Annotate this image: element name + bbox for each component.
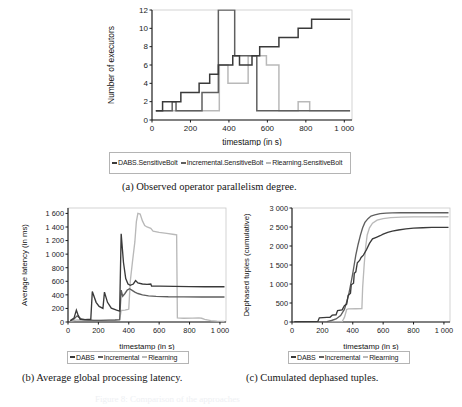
x-tick-label: 200	[316, 326, 328, 335]
legend-dephased-entry-1: Incremental	[319, 354, 360, 362]
y-tick-label: 12	[139, 6, 148, 15]
legend-swatch-icon	[266, 162, 271, 164]
legend-swatch-icon	[319, 356, 324, 358]
x-tick-label: 200	[92, 326, 104, 335]
series-line-rlearning	[294, 217, 448, 322]
series-line-incremental	[294, 213, 448, 322]
series-group	[70, 213, 224, 321]
y-tick-label: 0	[60, 318, 64, 327]
x-tick-label: 800	[299, 124, 313, 133]
y-tick-label: 6	[144, 61, 149, 70]
caption-c: (c) Cumulated dephased tuples.	[246, 372, 378, 383]
y-tick-label: 800	[52, 264, 64, 273]
x-tick-label: 0	[150, 124, 155, 133]
legend-dephased-label-2: Rlearning	[369, 354, 398, 362]
legend-swatch-icon	[363, 356, 368, 358]
x-tick-label: 0	[66, 326, 70, 335]
bleed-text-line-1: Figure 8: Comparison of the approaches	[95, 394, 240, 404]
y-tick-label: 600	[52, 277, 64, 286]
legend-dephased-entry-2: Rlearning	[363, 354, 398, 362]
y-tick-label: 1 000	[270, 280, 289, 289]
x-tick-label: 1 000	[334, 124, 355, 133]
legend-latency-label-2: Rlearning	[148, 354, 177, 362]
legend-dephased-label-1: Incremental	[325, 354, 360, 362]
series-line-rlearning	[156, 56, 350, 111]
series-line-rlearning	[70, 213, 224, 321]
y-tick-label: 0	[284, 318, 288, 327]
x-tick-label: 400	[123, 326, 135, 335]
chart-dephased-panel: 05001 0001 5002 0002 5003 00002004006008…	[240, 202, 454, 350]
series-line-dabs	[70, 234, 224, 321]
legend-swatch-icon	[181, 162, 186, 164]
y-axis-title: Number of executors	[106, 26, 116, 104]
y-tick-label: 400	[52, 291, 64, 300]
y-axis-title: Average latency (in ms)	[20, 224, 29, 306]
x-tick-label: 1 000	[211, 326, 230, 335]
x-tick-label: 600	[377, 326, 389, 335]
y-tick-label: 1 600	[46, 209, 65, 218]
x-tick-label: 800	[183, 326, 195, 335]
y-tick-label: 1 400	[46, 223, 65, 232]
x-tick-label: 400	[222, 124, 236, 133]
y-tick-label: 2	[144, 97, 149, 106]
y-tick-label: 3 000	[270, 204, 289, 213]
y-tick-label: 2 000	[270, 242, 289, 251]
caption-a: (a) Observed operator parallelism degree…	[122, 181, 297, 192]
legend-dephased-label-0: DABS	[297, 354, 316, 362]
legend-latency: DABSIncrementalRlearning	[67, 351, 189, 364]
x-axis-title: timestamp (in s)	[343, 342, 399, 351]
series-group	[156, 10, 350, 111]
x-tick-label: 600	[261, 124, 275, 133]
legend-swatch-icon	[98, 356, 103, 358]
legend-latency-label-0: DABS	[76, 354, 95, 362]
legend-parallelism-label-1: Incremental.SensitiveBolt	[187, 159, 263, 167]
legend-latency-entry-1: Incremental	[98, 354, 139, 362]
series-line-incremental	[156, 10, 350, 111]
x-tick-label: 1 000	[435, 326, 454, 335]
y-tick-label: 4	[144, 79, 149, 88]
x-tick-label: 800	[407, 326, 419, 335]
series-group	[294, 213, 448, 322]
x-tick-label: 400	[347, 326, 359, 335]
series-line-dabs	[156, 19, 350, 111]
x-axis-title: timestamp (in s)	[222, 137, 282, 147]
x-tick-label: 600	[153, 326, 165, 335]
legend-parallelism-label-2: Rlearning.SensitiveBolt	[272, 159, 342, 167]
y-tick-label: 200	[52, 304, 64, 313]
legend-parallelism-entry-0: DABS.SensitiveBolt	[112, 159, 178, 167]
legend-swatch-icon	[291, 356, 296, 358]
caption-b: (b) Average global processing latency.	[22, 372, 182, 383]
y-tick-label: 500	[276, 299, 288, 308]
series-line-dabs	[294, 227, 448, 321]
legend-swatch-icon	[70, 356, 75, 358]
y-tick-label: 1 200	[46, 236, 65, 245]
y-tick-label: 8	[144, 42, 149, 51]
x-tick-label: 200	[184, 124, 198, 133]
figure-container: 02468101202004006008001 000timestamp (in…	[0, 0, 462, 407]
chart-parallelism-panel: 02468101202004006008001 000timestamp (in…	[104, 4, 356, 146]
legend-parallelism-entry-1: Incremental.SensitiveBolt	[181, 159, 263, 167]
chart-latency: 02004006008001 0001 2001 4001 6000200400…	[18, 202, 230, 350]
legend-swatch-icon	[142, 356, 147, 358]
legend-dephased-entry-0: DABS	[291, 354, 316, 362]
y-tick-label: 1 500	[270, 261, 289, 270]
legend-parallelism: DABS.SensitiveBoltIncremental.SensitiveB…	[109, 152, 351, 174]
y-axis-title: Dephased tuples (cumulative)	[242, 213, 251, 317]
legend-latency-label-1: Incremental	[104, 354, 139, 362]
legend-parallelism-label-0: DABS.SensitiveBolt	[118, 159, 178, 167]
legend-latency-entry-2: Rlearning	[142, 354, 177, 362]
chart-latency-panel: 02004006008001 0001 2001 4001 6000200400…	[18, 202, 230, 350]
legend-dephased: DABSIncrementalRlearning	[288, 351, 410, 364]
x-tick-label: 0	[290, 326, 294, 335]
y-tick-label: 0	[144, 116, 149, 125]
chart-parallelism: 02468101202004006008001 000timestamp (in…	[104, 4, 356, 146]
legend-latency-entry-0: DABS	[70, 354, 95, 362]
legend-parallelism-entry-2: Rlearning.SensitiveBolt	[266, 159, 342, 167]
y-tick-label: 10	[139, 24, 148, 33]
legend-swatch-icon	[112, 162, 117, 164]
y-tick-label: 1 000	[46, 250, 65, 259]
y-tick-label: 2 500	[270, 223, 289, 232]
x-axis-title: timestamp (in s)	[119, 342, 175, 351]
chart-dephased: 05001 0001 5002 0002 5003 00002004006008…	[240, 202, 454, 350]
